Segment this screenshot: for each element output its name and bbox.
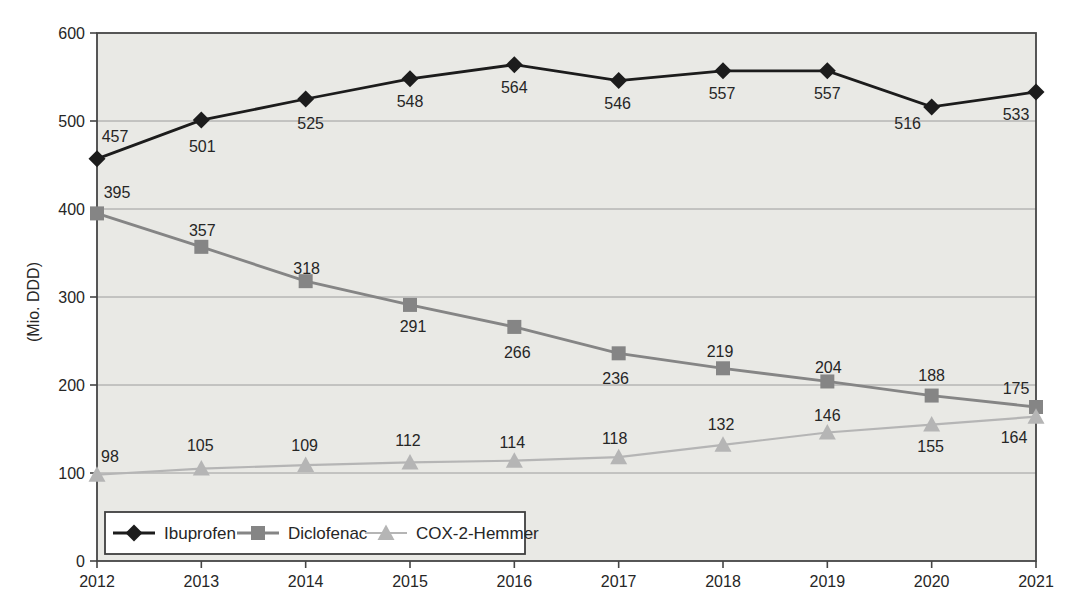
x-axis-tick-label-2018: 2018 xyxy=(705,573,741,590)
data-label-cox-2-hemmer-2012: 98 xyxy=(101,448,119,465)
data-label-ibuprofen-2012: 457 xyxy=(102,128,129,145)
line-chart-svg: 0100200300400500600201220132014201520162… xyxy=(0,0,1075,615)
y-axis-tick-label-0: 0 xyxy=(76,553,85,570)
data-label-cox-2-hemmer-2016: 114 xyxy=(500,434,526,451)
x-axis-tick-label-2015: 2015 xyxy=(392,573,428,590)
x-axis-tick-label-2021: 2021 xyxy=(1018,573,1054,590)
data-point-square-2012 xyxy=(90,206,104,220)
data-label-diclofenac-2019: 204 xyxy=(815,359,842,376)
data-point-square-2013 xyxy=(194,240,208,254)
x-axis-tick-label-2013: 2013 xyxy=(184,573,220,590)
data-point-square-2018 xyxy=(716,361,730,375)
data-label-cox-2-hemmer-2017: 118 xyxy=(602,430,628,447)
data-label-ibuprofen-2015: 548 xyxy=(397,93,424,110)
data-label-cox-2-hemmer-2015: 112 xyxy=(395,432,421,449)
data-label-cox-2-hemmer-2021: 164 xyxy=(1001,429,1028,446)
data-label-ibuprofen-2018: 557 xyxy=(709,85,736,102)
data-label-diclofenac-2015: 291 xyxy=(400,318,427,335)
data-point-square-2017 xyxy=(612,346,626,360)
chart: 0100200300400500600201220132014201520162… xyxy=(0,0,1075,615)
data-label-ibuprofen-2016: 564 xyxy=(501,79,528,96)
legend-label-diclofenac: Diclofenac xyxy=(288,524,368,543)
data-label-cox-2-hemmer-2020: 155 xyxy=(917,438,944,455)
data-label-ibuprofen-2021: 533 xyxy=(1003,106,1030,123)
data-label-cox-2-hemmer-2013: 105 xyxy=(187,437,214,454)
x-axis-tick-label-2017: 2017 xyxy=(601,573,637,590)
y-axis-tick-label-600: 600 xyxy=(58,25,85,42)
y-axis-tick-label-400: 400 xyxy=(58,201,85,218)
y-axis-tick-label-300: 300 xyxy=(58,289,85,306)
data-label-diclofenac-2014: 318 xyxy=(293,260,320,277)
data-point-square-2016 xyxy=(507,320,521,334)
x-axis-tick-label-2012: 2012 xyxy=(79,573,115,590)
data-label-cox-2-hemmer-2019: 146 xyxy=(814,407,841,424)
y-axis-tick-label-500: 500 xyxy=(58,113,85,130)
data-label-diclofenac-2018: 219 xyxy=(707,343,734,360)
data-label-diclofenac-2017: 236 xyxy=(602,370,629,387)
data-label-ibuprofen-2020: 516 xyxy=(894,115,921,132)
data-label-ibuprofen-2017: 546 xyxy=(604,95,631,112)
data-label-diclofenac-2012: 395 xyxy=(104,184,131,201)
legend-label-cox-2-hemmer: COX-2-Hemmer xyxy=(416,524,539,543)
x-axis-tick-label-2019: 2019 xyxy=(810,573,846,590)
x-axis-tick-label-2014: 2014 xyxy=(288,573,324,590)
data-point-square-2019 xyxy=(820,374,834,388)
legend-marker-square xyxy=(251,526,265,540)
data-label-cox-2-hemmer-2014: 109 xyxy=(291,437,318,454)
data-label-ibuprofen-2014: 525 xyxy=(297,115,324,132)
data-label-diclofenac-2021: 175 xyxy=(1003,380,1030,397)
y-axis-tick-label-100: 100 xyxy=(58,465,85,482)
data-label-ibuprofen-2019: 557 xyxy=(814,85,841,102)
data-point-square-2020 xyxy=(925,389,939,403)
data-label-diclofenac-2013: 357 xyxy=(189,222,216,239)
data-point-square-2015 xyxy=(403,298,417,312)
legend-label-ibuprofen: Ibuprofen xyxy=(164,524,236,543)
y-axis-title: (Mio. DDD) xyxy=(25,262,42,342)
data-label-diclofenac-2020: 188 xyxy=(918,367,945,384)
data-label-diclofenac-2016: 266 xyxy=(504,344,531,361)
x-axis-tick-label-2016: 2016 xyxy=(497,573,533,590)
data-label-ibuprofen-2013: 501 xyxy=(189,138,216,155)
y-axis-tick-label-200: 200 xyxy=(58,377,85,394)
x-axis-tick-label-2020: 2020 xyxy=(914,573,950,590)
data-label-cox-2-hemmer-2018: 132 xyxy=(708,416,735,433)
